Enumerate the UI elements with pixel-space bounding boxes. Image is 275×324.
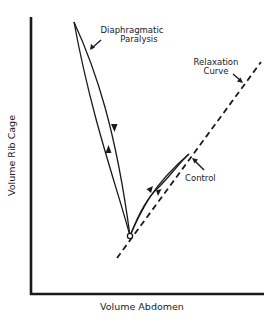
diagram-canvas (0, 0, 275, 324)
vertex-point (127, 233, 132, 238)
up-arrow-icon (106, 145, 112, 153)
relaxation-label-line2: Curve (190, 67, 242, 76)
control-loop (130, 154, 189, 236)
pointer-arrow-icon (90, 44, 95, 50)
control-label: Control (185, 174, 216, 183)
down-arrow-icon (156, 189, 162, 196)
relaxation-curve-line (117, 62, 261, 258)
paralysis-label-line2: Paralysis (96, 35, 168, 44)
up-arrow-icon (147, 186, 154, 193)
relaxation-curve-label: Relaxation Curve (190, 58, 242, 77)
paralysis-loop-left-strand (74, 22, 130, 236)
control-pointer-line (195, 161, 204, 170)
y-axis-label: Volume Rib Cage (5, 115, 16, 196)
paralysis-loop (74, 22, 130, 236)
paralysis-label: Diaphragmatic Paralysis (96, 26, 168, 45)
control-loop-lower-strand (130, 154, 189, 236)
control-loop-upper-strand (130, 154, 189, 236)
respiratory-volume-diagram: Diaphragmatic Paralysis Relaxation Curve… (0, 0, 275, 324)
x-axis-label: Volume Abdomen (100, 302, 184, 312)
paralysis-loop-right-strand (74, 22, 130, 236)
down-arrow-icon (111, 124, 118, 132)
